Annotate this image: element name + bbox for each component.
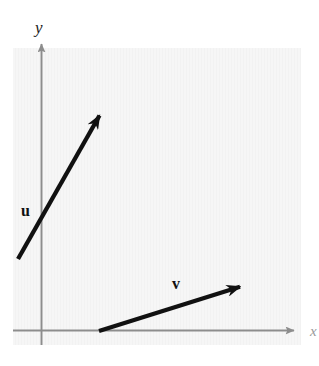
- y-axis-label: y: [35, 19, 43, 36]
- vector-u-label: u: [21, 203, 30, 219]
- vector-v-label: v: [172, 276, 180, 292]
- vector-diagram-figure: y x u v: [0, 0, 319, 366]
- plot-canvas: [0, 0, 319, 366]
- x-axis-label: x: [310, 324, 317, 339]
- plot-background-panel: [13, 48, 301, 345]
